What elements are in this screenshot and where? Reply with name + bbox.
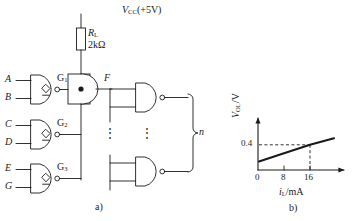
chart-ytick-label-0-4: 0.4 xyxy=(241,139,252,148)
figure-root: VCC(+5V) RL 2kΩ A B C D E G G1 G2 G3 F ⋮… xyxy=(0,0,354,221)
load-gate-top-body xyxy=(136,83,156,112)
caption-a: a) xyxy=(95,202,103,212)
input-label-c: C xyxy=(5,119,12,129)
chart-xtick-label-0: 0 xyxy=(255,173,260,182)
gate-g2-label: G2 xyxy=(57,118,68,129)
chart-group xyxy=(258,118,344,170)
output-label-f: F xyxy=(104,73,110,83)
load-gate-top-bubble xyxy=(160,95,165,100)
chart-ylabel: VOL/V xyxy=(231,93,242,118)
ellipsis-right: ⋮ xyxy=(141,127,153,139)
caption-b: b) xyxy=(289,203,297,213)
input-label-g: G xyxy=(5,181,12,191)
gate-g1-bubble xyxy=(55,87,60,92)
resistor-body xyxy=(77,28,86,50)
input-label-a: A xyxy=(5,74,11,84)
input-label-d: D xyxy=(5,137,12,147)
resistor-name-label: RL xyxy=(88,28,98,39)
gate-g3-bubble xyxy=(55,176,60,181)
chart-series-line xyxy=(259,138,334,161)
input-label-e: E xyxy=(5,163,11,173)
chart-xlabel: iL/mA xyxy=(279,187,304,198)
resistor-value-label: 2kΩ xyxy=(88,40,105,50)
gate-g1-label: G1 xyxy=(57,73,68,84)
wired-and-node-dot xyxy=(78,86,83,91)
gate-g3-label: G3 xyxy=(57,162,68,173)
chart-xtick-label-16: 16 xyxy=(304,173,313,182)
n-brace xyxy=(188,94,198,172)
vcc-label: VCC(+5V) xyxy=(122,5,161,16)
ellipsis-left: ⋮ xyxy=(104,127,116,139)
gate-g2-bubble xyxy=(55,132,60,137)
input-label-b: B xyxy=(5,92,11,102)
load-gate-bottom-body xyxy=(136,157,156,186)
chart-xtick-label-8: 8 xyxy=(281,173,286,182)
load-gate-bottom-bubble xyxy=(160,169,165,174)
n-count-label: n xyxy=(199,127,204,137)
